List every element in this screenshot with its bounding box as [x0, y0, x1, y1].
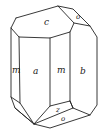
bottom-right-edge	[70, 101, 73, 108]
face-label-o-top: o	[76, 13, 80, 21]
bottom-left-facet-edge	[11, 97, 34, 124]
face-label-m-left: m	[12, 65, 21, 75]
face-label-b: b	[80, 66, 86, 76]
crystal-diagram: c o m a m b z o	[0, 0, 106, 137]
crystal-drawing: c o m a m b z o	[0, 0, 106, 137]
face-label-z: z	[55, 106, 60, 114]
z-face-edge	[34, 101, 73, 124]
face-label-m-mid: m	[57, 65, 66, 75]
o-bottom-facet-edge	[73, 108, 90, 115]
face-label-o-bottom: o	[61, 115, 65, 123]
face-label-c: c	[44, 17, 49, 27]
face-label-a: a	[33, 66, 38, 76]
